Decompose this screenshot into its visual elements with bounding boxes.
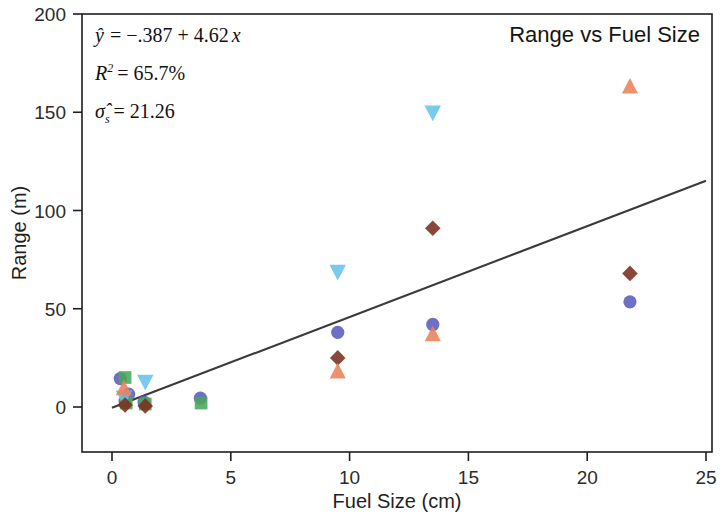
y-axis-title: Range (m)	[8, 186, 30, 280]
chart-canvas: 0510152025050100150200 Range vs Fuel Siz…	[0, 0, 728, 521]
annotation-equation: ŷ= −.387 + 4.62x	[93, 24, 241, 47]
scatter-plot: 0510152025050100150200 Range vs Fuel Siz…	[0, 0, 728, 521]
y-tick-label: 200	[34, 4, 66, 25]
y-tick-label: 0	[55, 397, 66, 418]
x-tick-label: 25	[695, 467, 716, 488]
data-point-circle	[331, 326, 344, 339]
x-axis-title: Fuel Size (cm)	[333, 490, 462, 512]
x-tick-label: 10	[339, 467, 360, 488]
y-tick-label: 50	[45, 299, 66, 320]
data-point-square	[195, 397, 208, 410]
data-point-circle	[623, 295, 636, 308]
x-tick-label: 20	[577, 467, 598, 488]
x-tick-label: 15	[458, 467, 479, 488]
x-tick-label: 0	[107, 467, 118, 488]
x-tick-label: 5	[226, 467, 237, 488]
y-tick-label: 100	[34, 201, 66, 222]
y-tick-label: 150	[34, 102, 66, 123]
plot-background	[0, 0, 728, 521]
chart-title: Range vs Fuel Size	[509, 22, 700, 47]
